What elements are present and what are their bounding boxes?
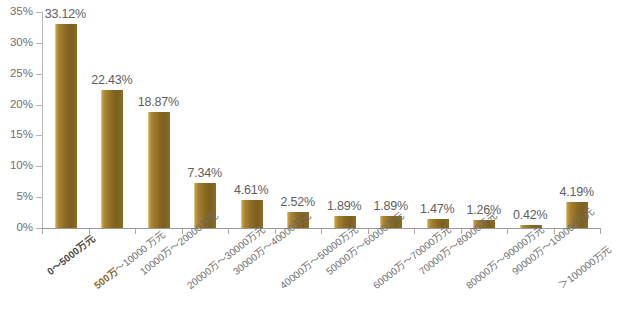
bar[interactable] — [101, 90, 123, 228]
bar-value-label: 0.42% — [499, 208, 561, 222]
x-tick-mark — [600, 229, 601, 234]
category-label: ＞100000万元 — [555, 241, 614, 292]
y-tick-label: 15% — [0, 129, 33, 141]
category-label: 0～5000万元 — [43, 230, 98, 277]
y-tick-label: 25% — [0, 68, 33, 80]
x-tick-mark — [42, 229, 43, 234]
bar-chart: 0%5%10%15%20%25%30%35% 33.12%22.43%18.87… — [0, 0, 630, 330]
bar[interactable] — [55, 24, 77, 228]
bar-value-label: 7.34% — [174, 166, 236, 180]
bar-value-label: 4.19% — [546, 185, 608, 199]
x-tick-mark — [414, 229, 415, 234]
y-tick-label: 10% — [0, 160, 33, 172]
y-tick-label: 20% — [0, 99, 33, 111]
y-tick-label: 30% — [0, 37, 33, 49]
x-tick-mark — [321, 229, 322, 234]
bar-value-label: 33.12% — [34, 7, 96, 21]
bar-value-label: 4.61% — [220, 183, 282, 197]
bar-value-label: 18.87% — [127, 95, 189, 109]
y-tick-label: 5% — [0, 191, 33, 203]
bar-value-label: 22.43% — [81, 73, 143, 87]
x-tick-mark — [507, 229, 508, 234]
x-tick-mark — [135, 229, 136, 234]
y-tick-label: 35% — [0, 6, 33, 18]
y-tick-label: 0% — [0, 222, 33, 234]
x-tick-mark — [228, 229, 229, 234]
bar[interactable] — [148, 112, 170, 228]
